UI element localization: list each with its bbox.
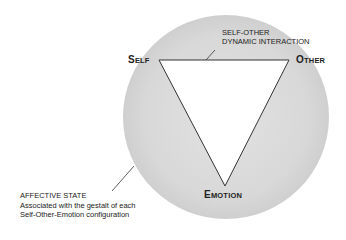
affective-label: AFFECTIVE STATE Associated with the gest… [20, 191, 136, 220]
node-emotion-initial: E [204, 189, 211, 200]
node-other: OTHER [296, 55, 325, 65]
node-emotion: EMOTION [204, 190, 242, 200]
interaction-label-line2: DYNAMIC INTERACTION [222, 37, 310, 46]
affective-leader-line [112, 166, 134, 191]
interaction-label-line1: SELF-OTHER [222, 28, 310, 37]
interaction-label: SELF-OTHER DYNAMIC INTERACTION [222, 28, 310, 46]
node-other-rest: THER [304, 56, 325, 65]
node-self: SELF [128, 55, 150, 65]
affective-label-line2: Self-Other-Emotion configuration [20, 210, 136, 220]
affective-label-line1: Associated with the gestalt of each [20, 201, 136, 211]
node-self-initial: S [128, 54, 135, 65]
node-other-initial: O [296, 54, 304, 65]
affective-label-title: AFFECTIVE STATE [20, 191, 136, 201]
node-self-rest: ELF [135, 56, 150, 65]
node-emotion-rest: MOTION [211, 191, 242, 200]
